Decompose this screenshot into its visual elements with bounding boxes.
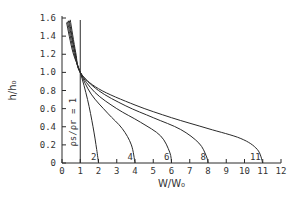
curve-label-4: 4	[128, 152, 133, 162]
y-tick-label: 0.4	[40, 122, 56, 132]
x-tick-label: 0	[59, 166, 64, 176]
curves	[67, 20, 263, 163]
reference-line-label: ρs/ρr = 1	[68, 98, 78, 147]
x-tick-label: 12	[276, 166, 287, 176]
y-tick-label: 0.2	[40, 140, 56, 150]
x-tick-label: 2	[96, 166, 101, 176]
x-tick-label: 7	[187, 166, 192, 176]
y-tick-label: 0.6	[40, 104, 56, 114]
y-tick-label: 1.0	[40, 67, 56, 77]
x-tick-label: 5	[151, 166, 156, 176]
curve-6	[68, 21, 171, 163]
curve-label-8: 8	[201, 152, 206, 162]
x-tick-label: 4	[132, 166, 137, 176]
x-tick-label: 9	[224, 166, 229, 176]
x-tick-label: 6	[169, 166, 174, 176]
x-tick-label: 1	[78, 166, 83, 176]
y-axis-title: h/h₀	[7, 80, 18, 100]
curve-label-11: 11	[250, 152, 261, 162]
y-tick-label: 1.4	[40, 31, 56, 41]
x-tick-label: 11	[257, 166, 268, 176]
y-tick-label: 0.8	[40, 86, 56, 96]
y-tick-label: 1.6	[40, 13, 56, 23]
y-tick-label: 1.2	[40, 49, 56, 59]
x-tick-label: 10	[239, 166, 250, 176]
curve-label-2: 2	[91, 152, 96, 162]
curve-label-6: 6	[164, 152, 169, 162]
x-tick-label: 8	[205, 166, 210, 176]
x-tick-label: 3	[114, 166, 119, 176]
chart: 012345678910111200.20.40.60.81.01.21.41.…	[0, 0, 300, 200]
y-tick-label: 0	[51, 158, 56, 168]
x-axis-title: W/W₀	[158, 178, 185, 189]
